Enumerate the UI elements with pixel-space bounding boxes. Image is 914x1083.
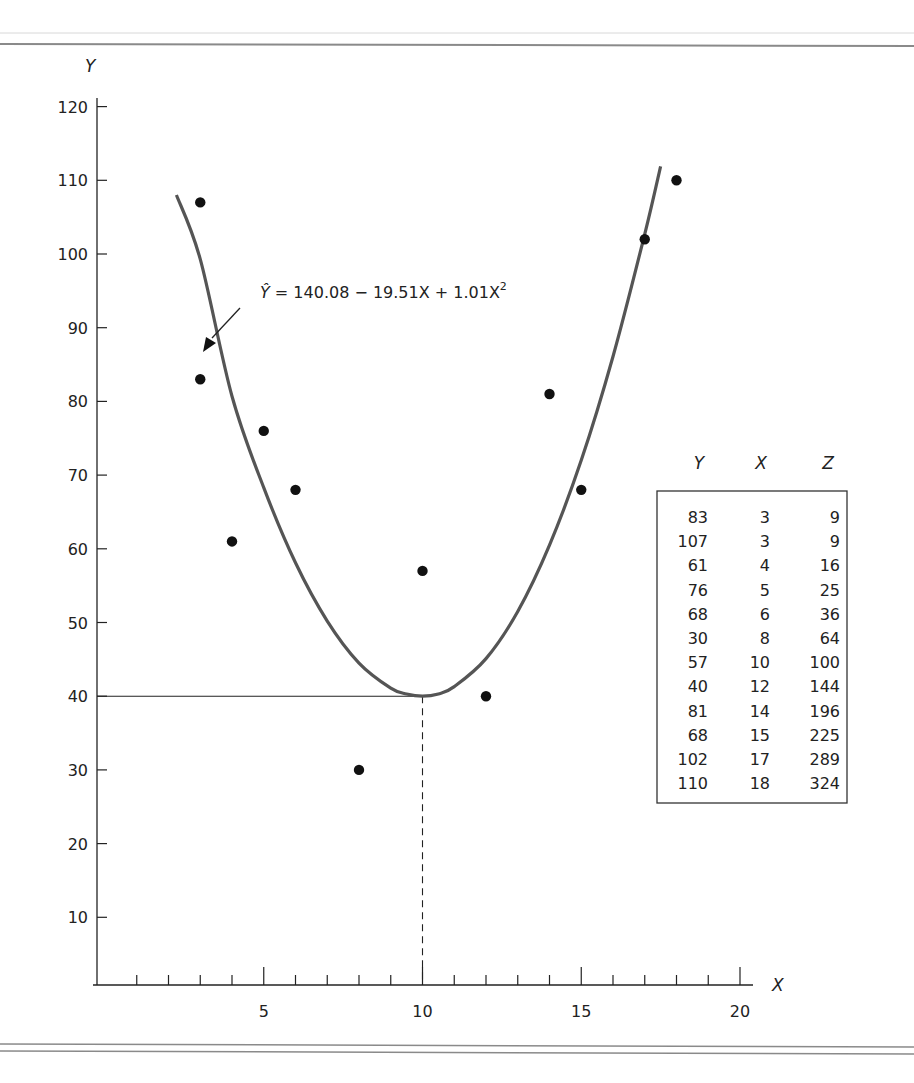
data-point bbox=[354, 765, 364, 775]
table-cell: 9 bbox=[830, 508, 840, 527]
x-tick-label: 10 bbox=[412, 1002, 432, 1021]
equation-body: = 140.08 − 19.51X + 1.01X bbox=[270, 283, 500, 302]
table-cell: 14 bbox=[750, 702, 770, 721]
table-cell: 196 bbox=[809, 702, 840, 721]
table-column-header: Z bbox=[821, 453, 834, 473]
table-cell: 289 bbox=[809, 750, 840, 769]
data-table: YXZ 833910739614167652568636308645710100… bbox=[657, 453, 847, 803]
table-cell: 25 bbox=[820, 581, 840, 600]
table-cell: 324 bbox=[809, 774, 840, 793]
data-point bbox=[576, 485, 586, 495]
equation-label: Ŷ = 140.08 − 19.51X + 1.01X2 bbox=[260, 280, 507, 302]
table-cell: 102 bbox=[677, 750, 708, 769]
arrow-head-icon bbox=[203, 337, 216, 352]
table-cell: 18 bbox=[750, 774, 770, 793]
table-cell: 3 bbox=[760, 532, 770, 551]
table-cell: 40 bbox=[688, 677, 708, 696]
page-rules bbox=[0, 33, 914, 1054]
table-body: 8339107396141676525686363086457101004012… bbox=[677, 508, 840, 793]
table-cell: 100 bbox=[809, 653, 840, 672]
table-header: YXZ bbox=[694, 453, 834, 473]
equation-annotation: Ŷ = 140.08 − 19.51X + 1.01X2 bbox=[203, 280, 507, 352]
table-cell: 16 bbox=[820, 556, 840, 575]
table-cell: 10 bbox=[750, 653, 770, 672]
data-point bbox=[417, 566, 427, 576]
data-point bbox=[544, 389, 554, 399]
y-tick-label: 30 bbox=[68, 761, 88, 780]
reference-lines bbox=[97, 696, 423, 985]
x-axis-ticks: 5101520 bbox=[137, 967, 750, 1021]
table-cell: 12 bbox=[750, 677, 770, 696]
y-tick-label: 70 bbox=[68, 466, 88, 485]
y-tick-label: 20 bbox=[68, 835, 88, 854]
y-tick-label: 80 bbox=[68, 392, 88, 411]
table-cell: 110 bbox=[677, 774, 708, 793]
y-tick-label: 120 bbox=[57, 98, 88, 117]
table-cell: 6 bbox=[760, 605, 770, 624]
table-cell: 4 bbox=[760, 556, 770, 575]
table-column-header: Y bbox=[694, 453, 706, 473]
axes: Y X bbox=[85, 56, 784, 995]
y-tick-label: 10 bbox=[68, 908, 88, 927]
table-cell: 61 bbox=[688, 556, 708, 575]
table-cell: 8 bbox=[760, 629, 770, 648]
table-cell: 107 bbox=[677, 532, 708, 551]
table-cell: 144 bbox=[809, 677, 840, 696]
data-point bbox=[195, 374, 205, 384]
table-cell: 76 bbox=[688, 581, 708, 600]
data-point bbox=[259, 426, 269, 436]
x-axis-title: X bbox=[771, 975, 784, 995]
data-point bbox=[640, 234, 650, 244]
scatter-points bbox=[195, 175, 682, 775]
y-tick-label: 90 bbox=[68, 319, 88, 338]
table-cell: 17 bbox=[750, 750, 770, 769]
table-cell: 57 bbox=[688, 653, 708, 672]
y-tick-label: 110 bbox=[57, 171, 88, 190]
table-cell: 15 bbox=[750, 726, 770, 745]
table-cell: 225 bbox=[809, 726, 840, 745]
x-tick-label: 20 bbox=[730, 1002, 750, 1021]
table-column-header: X bbox=[754, 453, 767, 473]
y-tick-label: 100 bbox=[57, 245, 88, 264]
table-cell: 36 bbox=[820, 605, 840, 624]
table-cell: 3 bbox=[760, 508, 770, 527]
quadratic-regression-chart: Y X 102030405060708090100110120 5101520 … bbox=[0, 0, 914, 1083]
data-point bbox=[290, 485, 300, 495]
data-point bbox=[671, 175, 681, 185]
table-cell: 9 bbox=[830, 532, 840, 551]
table-cell: 30 bbox=[688, 629, 708, 648]
y-axis-title: Y bbox=[85, 56, 97, 76]
fitted-curve bbox=[176, 166, 660, 696]
y-tick-label: 50 bbox=[68, 614, 88, 633]
y-tick-label: 60 bbox=[68, 540, 88, 559]
table-cell: 81 bbox=[688, 702, 708, 721]
table-cell: 5 bbox=[760, 581, 770, 600]
table-cell: 68 bbox=[688, 726, 708, 745]
x-tick-label: 15 bbox=[571, 1002, 591, 1021]
table-cell: 83 bbox=[688, 508, 708, 527]
data-point bbox=[227, 536, 237, 546]
data-point bbox=[481, 691, 491, 701]
table-cell: 68 bbox=[688, 605, 708, 624]
x-tick-label: 5 bbox=[259, 1002, 269, 1021]
data-point bbox=[195, 197, 205, 207]
y-axis-ticks: 102030405060708090100110120 bbox=[57, 98, 107, 928]
table-cell: 64 bbox=[820, 629, 840, 648]
equation-exponent: 2 bbox=[500, 280, 507, 293]
y-tick-label: 40 bbox=[68, 687, 88, 706]
